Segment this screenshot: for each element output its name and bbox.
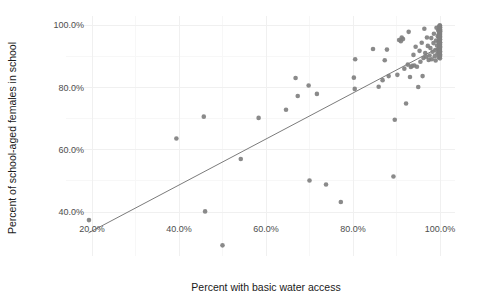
data-point xyxy=(315,92,320,97)
data-point xyxy=(371,47,376,52)
x-tick-label: 40.0% xyxy=(166,224,192,234)
data-point xyxy=(385,47,390,52)
data-point xyxy=(256,116,261,121)
data-point xyxy=(438,24,443,29)
y-tick-label: 80.0% xyxy=(58,83,84,93)
scatter-plot-figure: 20.0%40.0%60.0%80.0%100.0% 40.0%60.0%80.… xyxy=(0,0,482,302)
data-point xyxy=(306,83,311,88)
data-point xyxy=(429,36,434,41)
x-tick-label: 20.0% xyxy=(79,224,105,234)
x-tick-label: 80.0% xyxy=(340,224,366,234)
data-point xyxy=(174,136,179,141)
data-point xyxy=(419,40,424,45)
data-point xyxy=(408,75,413,80)
data-point xyxy=(415,64,420,69)
plot-canvas: 20.0%40.0%60.0%80.0%100.0% 40.0%60.0%80.… xyxy=(0,0,482,302)
data-point xyxy=(392,117,397,122)
data-point xyxy=(402,66,407,71)
data-point xyxy=(395,73,400,78)
data-point xyxy=(418,59,423,64)
data-point xyxy=(87,218,92,223)
data-point xyxy=(380,78,385,83)
data-point xyxy=(324,182,329,187)
data-point xyxy=(339,200,344,205)
data-point xyxy=(422,26,427,31)
data-point xyxy=(438,30,443,35)
y-tick-label: 100.0% xyxy=(53,20,84,30)
data-point xyxy=(382,58,387,63)
data-point xyxy=(406,30,411,35)
data-point xyxy=(202,114,207,119)
data-point xyxy=(238,157,243,162)
x-axis-title: Percent with basic water access xyxy=(191,281,340,293)
data-point xyxy=(416,85,421,90)
data-point xyxy=(413,45,418,50)
data-point xyxy=(220,243,225,248)
y-tick-label: 40.0% xyxy=(58,207,84,217)
data-point xyxy=(307,178,312,183)
data-point xyxy=(404,101,409,106)
data-point xyxy=(353,57,358,62)
data-point xyxy=(401,37,406,42)
data-point xyxy=(295,94,300,99)
x-tick-label: 60.0% xyxy=(253,224,279,234)
x-tick-label: 100.0% xyxy=(425,224,456,234)
data-point xyxy=(293,76,298,81)
data-point xyxy=(352,87,357,92)
data-point xyxy=(420,74,425,79)
data-point xyxy=(391,174,396,179)
data-point xyxy=(432,31,437,36)
data-point xyxy=(438,56,443,61)
data-point xyxy=(203,209,208,214)
data-point xyxy=(417,49,422,54)
data-point xyxy=(438,50,443,55)
y-axis-title: Percent of school-aged females in school xyxy=(6,42,18,234)
data-point xyxy=(425,35,430,40)
data-point xyxy=(352,75,357,80)
data-point xyxy=(376,84,381,89)
y-tick-label: 60.0% xyxy=(58,145,84,155)
data-point xyxy=(438,44,443,49)
data-point xyxy=(411,53,416,58)
data-point xyxy=(386,74,391,79)
data-point xyxy=(284,107,289,112)
data-point xyxy=(438,37,443,42)
